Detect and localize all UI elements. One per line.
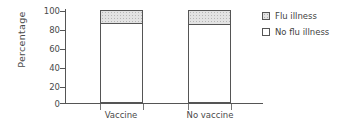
y-axis-tick-labels: 100 80 60 40 20 0 [34,0,60,131]
y-tick-label-80: 80 [36,26,60,35]
y-axis-label: Percentage [16,0,27,83]
y-axis-line [65,9,66,104]
y-tick-label-0: 0 [36,100,60,109]
legend-label-flu-illness: Flu illness [275,12,317,21]
bar-no-vaccine-noflu-segment [188,24,231,103]
bar-vaccine [100,10,143,103]
legend-swatch-no-flu-illness-icon [262,28,270,36]
legend-swatch-flu-illness-icon [262,12,270,20]
x-axis-line [65,103,263,104]
bar-no-vaccine-flu-segment [188,10,231,25]
bar-vaccine-flu-segment [100,10,143,24]
bar-vaccine-noflu-segment [100,23,143,103]
y-tick-label-40: 40 [36,64,60,73]
chart-legend: Flu illness No flu illness [262,8,343,40]
legend-label-no-flu-illness: No flu illness [275,28,329,37]
x-category-label-vaccine: Vaccine [91,110,151,120]
flu-vaccine-stacked-bar-chart: Percentage 100 80 60 40 20 0 Vaccine No … [0,0,343,131]
bar-no-vaccine [188,10,231,103]
legend-item-no-flu-illness: No flu illness [262,24,343,40]
legend-item-flu-illness: Flu illness [262,8,343,24]
y-tick-label-20: 20 [36,83,60,92]
x-category-label-no-vaccine: No vaccine [176,110,244,120]
y-tick-label-100: 100 [36,7,60,16]
y-tick-label-60: 60 [36,45,60,54]
